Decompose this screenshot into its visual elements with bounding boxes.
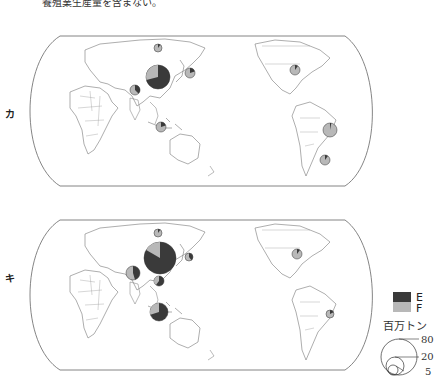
map-ki — [30, 220, 372, 370]
pie-usa — [292, 249, 302, 259]
map-ka — [30, 36, 372, 186]
pie-peru — [323, 123, 337, 137]
pie-vietnam — [154, 276, 164, 286]
pie-russia — [154, 44, 162, 52]
pie-usa — [290, 65, 300, 75]
legend-swatch-e — [393, 292, 411, 302]
legend-label-f: F — [416, 302, 422, 315]
pie-india — [126, 266, 140, 280]
pie-peru — [326, 310, 334, 318]
map-label-ki: キ — [5, 270, 15, 285]
pie-russia — [154, 229, 162, 237]
legend-scale-80: 80 — [421, 334, 434, 345]
pie-china — [144, 242, 176, 274]
pie-indonesia — [150, 303, 168, 321]
pie-japan — [185, 253, 193, 261]
pie-chile — [320, 155, 330, 165]
pie-japan — [185, 68, 195, 78]
legend-unit: 百万トン — [383, 320, 427, 333]
pie-china — [146, 65, 170, 89]
map-figure: E F 百万トン 80 20 5 — [0, 0, 435, 385]
pie-indonesia — [156, 122, 166, 132]
legend-scale-5: 5 — [425, 366, 431, 377]
legend-swatch-f — [393, 302, 411, 312]
legend-scale-20: 20 — [421, 351, 434, 362]
legend: E F 百万トン 80 20 5 — [381, 291, 434, 377]
pie-india — [130, 85, 140, 95]
map-label-ka: カ — [5, 106, 15, 121]
